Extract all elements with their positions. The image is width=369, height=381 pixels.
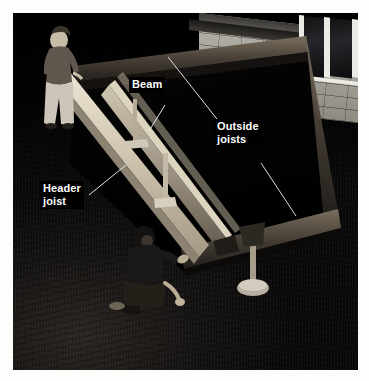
label-header-joist: Header joist	[40, 181, 84, 209]
label-beam: Beam	[129, 77, 165, 93]
window-frame-right	[352, 19, 358, 78]
screenshot-root: Beam Outside joists Header joist	[0, 0, 369, 381]
label-outside-joists: Outside joists	[214, 119, 262, 147]
instructional-photo: Beam Outside joists Header joist	[13, 13, 358, 370]
window-glass-right	[330, 18, 352, 79]
window-glass-left	[304, 16, 324, 78]
